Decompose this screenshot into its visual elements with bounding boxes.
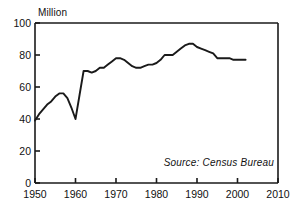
x-tick-label: 1980 (135, 189, 179, 200)
x-tick-label: 1990 (175, 189, 219, 200)
y-tick-label: 0 (0, 178, 31, 189)
line-chart-plot (0, 0, 298, 211)
y-tick-label: 60 (0, 82, 31, 93)
x-tick-label: 1950 (13, 189, 57, 200)
x-tick-label: 2010 (256, 189, 298, 200)
y-tick-label: 80 (0, 50, 31, 61)
x-tick-label: 1960 (54, 189, 98, 200)
x-tick-label: 2000 (216, 189, 260, 200)
source-note: Source: Census Bureau (164, 158, 274, 168)
chart-figure: Million 100806040200 1950196019701980199… (0, 0, 298, 211)
x-tick-label: 1970 (94, 189, 138, 200)
y-tick-label: 100 (0, 18, 31, 29)
y-tick-label: 20 (0, 146, 31, 157)
y-axis-label: Million (38, 8, 67, 18)
data-series-line (35, 44, 246, 121)
y-tick-label: 40 (0, 114, 31, 125)
